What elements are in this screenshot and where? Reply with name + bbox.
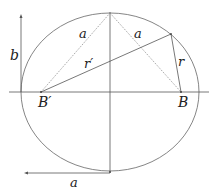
label-a-right: a xyxy=(134,27,142,40)
dotted-line-right-a xyxy=(110,13,181,92)
r-prime-line xyxy=(41,34,171,92)
bottom-vertex-dot xyxy=(109,171,111,173)
label-r-prime: r′ xyxy=(84,57,93,70)
focus-left-dot xyxy=(40,91,42,93)
label-a-left: a xyxy=(79,27,87,40)
label-b: b xyxy=(10,48,19,62)
ellipse-diagram: b a a r′ r B′ B a xyxy=(0,0,213,191)
label-a-bottom: a xyxy=(70,176,78,189)
focus-right-dot xyxy=(180,91,182,93)
label-B-prime: B′ xyxy=(38,95,51,109)
a-arrowhead xyxy=(24,172,28,175)
point-on-ellipse-dot xyxy=(170,33,172,35)
label-r: r xyxy=(178,55,184,68)
b-arrowhead xyxy=(20,14,23,18)
dotted-line-left-a xyxy=(41,13,110,92)
label-B: B xyxy=(178,95,188,109)
